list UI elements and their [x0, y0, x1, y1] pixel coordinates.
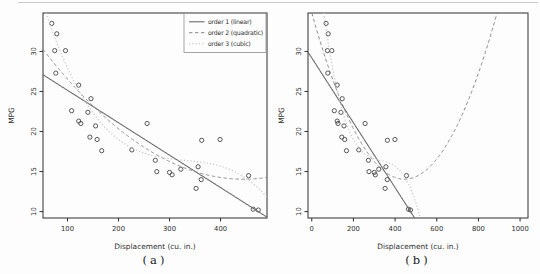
legend: order 1 (linear)order 2 (quadratic)order…: [184, 14, 266, 53]
y-axis-label-a: MPG: [7, 96, 16, 136]
y-tick-label: 25: [30, 87, 38, 96]
data-point: [194, 186, 198, 190]
data-point: [70, 109, 74, 113]
x-tick-label: 1000: [511, 225, 528, 233]
data-point: [384, 165, 388, 169]
y-tick-label: 10: [295, 207, 303, 216]
fit-line-solid: [308, 52, 415, 218]
data-point: [326, 71, 330, 75]
y-tick-label: 30: [295, 47, 303, 56]
x-tick-label: 200: [347, 225, 360, 233]
data-point: [179, 167, 183, 171]
mpg-displacement-figure: 1002003004001015202530order 1 (linear)or…: [0, 0, 540, 274]
data-point: [55, 32, 59, 36]
data-point: [88, 135, 92, 139]
x-tick-label: 200: [112, 225, 125, 233]
y-tick-label: 30: [30, 47, 38, 56]
x-tick-label: 400: [389, 225, 402, 233]
data-point: [343, 137, 347, 141]
fit-line-dotted: [324, 13, 420, 218]
y-axis-label-b: MPG: [277, 96, 286, 136]
data-point: [94, 124, 98, 128]
data-point: [200, 138, 204, 142]
x-tick-label: 400: [214, 225, 227, 233]
x-axis-label-b: Displacement (cu. in.): [308, 242, 528, 251]
data-point: [50, 21, 54, 25]
x-tick-label: 0: [310, 225, 314, 233]
y-tick-label: 15: [30, 167, 38, 176]
y-tick-label: 10: [30, 207, 38, 216]
fit-line-solid: [43, 75, 267, 217]
data-point: [95, 137, 99, 141]
data-point: [89, 97, 93, 101]
y-tick-label: 20: [295, 127, 303, 136]
panel-caption-a: (a): [43, 253, 267, 267]
data-point: [383, 186, 387, 190]
data-point: [332, 109, 336, 113]
data-point: [145, 121, 149, 125]
data-point: [155, 170, 159, 174]
x-tick-label: 600: [430, 225, 443, 233]
data-point: [86, 110, 90, 114]
data-point: [170, 173, 174, 177]
data-point: [196, 165, 200, 169]
data-point: [63, 49, 67, 53]
data-point: [342, 124, 346, 128]
data-point: [199, 178, 203, 182]
plot-frame: [308, 13, 528, 218]
data-point: [218, 137, 222, 141]
y-tick-label: 15: [295, 167, 303, 176]
legend-label: order 3 (cubic): [208, 40, 251, 47]
data-point: [324, 21, 328, 25]
y-tick-label: 25: [295, 87, 303, 96]
y-tick-label: 20: [30, 127, 38, 136]
x-tick-label: 300: [163, 225, 176, 233]
data-point: [393, 137, 397, 141]
panel-caption-b: (b): [308, 253, 528, 267]
legend-label: order 2 (quadratic): [208, 29, 263, 37]
data-point: [53, 49, 57, 53]
data-point: [385, 138, 389, 142]
fit-line-dashed: [43, 49, 267, 179]
scatter-plot-a: 1002003004001015202530order 1 (linear)or…: [0, 0, 270, 274]
data-point: [404, 174, 408, 178]
data-point: [153, 158, 157, 162]
legend-label: order 1 (linear): [208, 18, 252, 25]
data-point: [366, 158, 370, 162]
fit-line-dashed: [312, 13, 497, 179]
x-tick-label: 100: [61, 225, 74, 233]
x-axis-label-a: Displacement (cu. in.): [43, 242, 267, 251]
data-point: [100, 149, 104, 153]
scatter-plot-b: 020040060080010001015202530: [270, 0, 540, 274]
data-point: [363, 121, 367, 125]
plot-panel-a: 1002003004001015202530order 1 (linear)or…: [0, 0, 270, 274]
data-point: [167, 170, 171, 174]
data-point: [344, 149, 348, 153]
data-point: [54, 71, 58, 75]
data-point: [247, 174, 251, 178]
data-point: [367, 170, 371, 174]
x-tick-label: 800: [472, 225, 485, 233]
plot-panel-b: 020040060080010001015202530 Displacement…: [270, 0, 540, 274]
